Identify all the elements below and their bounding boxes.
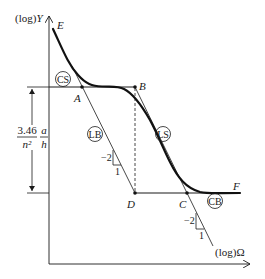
point-e-label: E bbox=[56, 19, 64, 31]
y-axis-label: (log)Y bbox=[15, 12, 44, 25]
lb-slope-triangle: −2 1 bbox=[101, 150, 121, 177]
ls-asymptote bbox=[135, 87, 213, 246]
svg-text:LB: LB bbox=[89, 129, 102, 140]
svg-text:1: 1 bbox=[115, 166, 120, 177]
point-b-label: B bbox=[139, 80, 146, 92]
lb-asymptote bbox=[72, 66, 135, 193]
asymptote-diagram: (log)Y (log)Ω E A B D C F CS LB LS CB bbox=[0, 0, 265, 279]
svg-text:−2: −2 bbox=[184, 215, 195, 226]
point-c-marker bbox=[185, 191, 189, 195]
region-ls: LS bbox=[156, 127, 171, 142]
x-axis-label: (log)Ω bbox=[215, 246, 245, 259]
ls-slope-triangle: −2 1 bbox=[184, 213, 204, 241]
svg-text:h: h bbox=[41, 138, 47, 150]
svg-text:CB: CB bbox=[208, 196, 222, 207]
point-a-marker bbox=[80, 85, 84, 89]
region-cb: CB bbox=[208, 194, 223, 209]
svg-text:1: 1 bbox=[199, 230, 204, 241]
svg-text:CS: CS bbox=[57, 74, 69, 85]
point-c-label: C bbox=[179, 198, 187, 210]
svg-text:a: a bbox=[41, 124, 47, 136]
region-cs: CS bbox=[56, 72, 71, 87]
point-a-label: A bbox=[73, 92, 81, 104]
dimension-label: 3.46 n² a h bbox=[17, 124, 48, 150]
point-f-label: F bbox=[232, 180, 240, 192]
region-lb: LB bbox=[88, 127, 103, 142]
point-d-label: D bbox=[126, 198, 135, 210]
svg-text:−2: −2 bbox=[101, 152, 112, 163]
svg-text:LS: LS bbox=[157, 129, 169, 140]
svg-text:n²: n² bbox=[23, 138, 33, 150]
point-b-marker bbox=[133, 85, 137, 89]
svg-text:3.46: 3.46 bbox=[17, 124, 37, 136]
point-d-marker bbox=[133, 191, 137, 195]
